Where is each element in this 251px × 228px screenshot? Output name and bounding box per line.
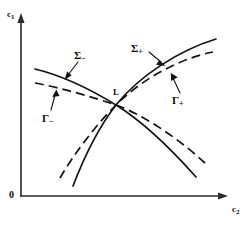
x-axis-label: c2 <box>232 205 240 214</box>
figure-canvas <box>0 0 251 228</box>
gamma-plus-subscript: + <box>179 99 183 108</box>
gamma-minus-leader-arrowhead <box>52 90 59 98</box>
x-axis-arrowhead <box>218 192 228 199</box>
gamma-minus-subscript: − <box>49 117 53 126</box>
gamma-plus-glyph: Γ <box>172 94 179 106</box>
sigma-plus-curve <box>73 39 216 186</box>
gamma-minus-glyph: Γ <box>42 112 49 124</box>
curves-group <box>35 39 216 186</box>
y-axis-label-subscript: 1 <box>11 13 15 21</box>
sigma-minus-leader-arrowhead <box>65 72 72 80</box>
sigma-minus-curve <box>35 69 196 177</box>
curve-label-gamma-plus: Γ+ <box>172 95 183 106</box>
y-axis-arrowhead <box>17 13 24 23</box>
sigma-minus-leader-line <box>68 62 78 75</box>
curve-label-gamma-minus: Γ− <box>42 113 53 124</box>
sigma-plus-subscript: + <box>138 47 142 56</box>
gamma-plus-leader-line <box>173 78 180 93</box>
figure-container: Σ− Γ− Σ+ Γ+ L c1 c2 0 <box>0 0 251 228</box>
x-axis-label-subscript: 2 <box>236 208 240 216</box>
gamma-minus-leader-line <box>51 95 55 110</box>
sigma-minus-subscript: − <box>81 54 85 63</box>
curve-label-sigma-minus: Σ− <box>74 50 85 61</box>
y-axis-label: c1 <box>7 10 15 19</box>
axes-group <box>17 13 228 200</box>
intersection-point-label: L <box>113 88 119 97</box>
origin-label: 0 <box>9 190 14 200</box>
curve-label-sigma-plus: Σ+ <box>131 43 142 54</box>
